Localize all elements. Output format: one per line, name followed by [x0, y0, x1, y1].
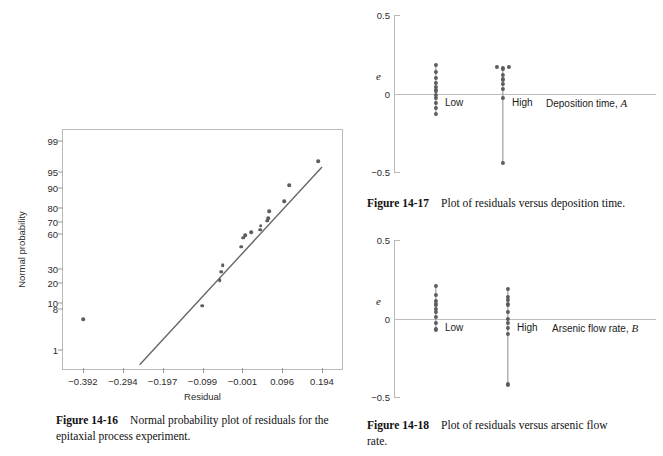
x-axis-tick-label: −0.294 [108, 376, 137, 387]
figure-14-16-caption-label: Figure 14-16 [56, 414, 118, 426]
y-axis-tick-label: 0.5 [377, 235, 390, 246]
residual-point [506, 382, 510, 386]
figure-14-17-caption-line1: Plot of residuals versus deposition time… [441, 197, 625, 209]
figure-14-18-caption-label: Figure 14-18 [367, 419, 429, 431]
residual-point [506, 316, 510, 320]
x-axis-tick-mark [322, 368, 323, 373]
data-point [317, 159, 321, 163]
y-axis-tick-label: 30 [47, 264, 58, 275]
x-axis-tick-mark [282, 368, 283, 373]
y-axis-tick-label: 8 [53, 303, 58, 314]
y-axis-label: e [376, 70, 381, 82]
residual-point [506, 321, 510, 325]
x-axis-tick-label: 0.194 [310, 376, 334, 387]
group-label-high: High [512, 97, 533, 108]
y-axis-tick-label: 0.5 [377, 10, 390, 21]
residual-point [501, 160, 505, 164]
figure-14-17-panel: 0.50−0.5 e Low High Deposition time, A [370, 8, 663, 183]
x-axis-tick-mark [123, 368, 124, 373]
residual-point [434, 69, 438, 73]
x-axis-title: Residual [62, 391, 343, 402]
normal-probability-plot-frame: 99959080706030201081 −0.392−0.294−0.197−… [62, 129, 343, 370]
data-point [268, 209, 272, 213]
data-point [283, 199, 287, 203]
figure-14-18-caption-line1: Plot of residuals versus arsenic flow [441, 419, 607, 431]
residual-point [506, 298, 510, 302]
y-axis-title-text: Normal probability [16, 211, 27, 288]
fit-line [63, 130, 342, 369]
y-axis-tick-label: −0.5 [371, 392, 390, 403]
residual-point [501, 96, 505, 100]
residual-point [434, 293, 438, 297]
residual-point [506, 302, 510, 306]
residual-point [434, 327, 438, 331]
figure-14-16-caption-line2: epitaxial process experiment. [56, 429, 356, 445]
y-axis-tick-label: 90 [47, 183, 58, 194]
residual-point [501, 82, 505, 86]
data-point [266, 216, 270, 220]
x-axis-tick-label: −0.197 [148, 376, 177, 387]
data-point [259, 224, 263, 228]
residual-point [434, 310, 438, 314]
x-axis-tick-mark [83, 368, 84, 373]
data-point [287, 184, 291, 188]
x-axis-tick-label: −0.392 [68, 376, 97, 387]
figure-14-18-panel: 0.50−0.5 e Low High Arsenic flow rate, B [370, 233, 663, 408]
data-point [218, 279, 222, 283]
residual-point [434, 63, 438, 67]
y-axis-tick-label: −0.5 [371, 167, 390, 178]
residual-point [434, 88, 438, 92]
y-axis-tick-label: 95 [47, 166, 58, 177]
group-label-low: Low [445, 97, 463, 108]
y-axis-tick-label: 20 [47, 278, 58, 289]
data-point [258, 228, 262, 232]
figure-14-17-caption-label: Figure 14-17 [367, 197, 429, 209]
group-label-high: High [517, 322, 538, 333]
x-axis-tick-label: −0.001 [228, 376, 257, 387]
factor-axis-label-symbol: B [631, 322, 638, 334]
residual-point [501, 66, 505, 70]
y-axis-tick-label: 60 [47, 229, 58, 240]
residual-point [434, 76, 438, 80]
normal-probability-plot-area: 99959080706030201081 [63, 130, 342, 369]
figure-14-16-panel: 99959080706030201081 −0.392−0.294−0.197−… [0, 0, 360, 456]
data-point [219, 270, 223, 274]
residual-point [434, 80, 438, 84]
factor-axis-label-symbol: A [620, 97, 627, 109]
y-axis-tick-mark [394, 172, 400, 173]
residual-point [434, 112, 438, 116]
residual-point [434, 101, 438, 105]
residual-point [506, 326, 510, 330]
factor-axis-label: Arsenic flow rate, B [552, 322, 638, 334]
x-axis-tick-label: −0.099 [188, 376, 217, 387]
data-point [221, 264, 225, 268]
residual-point [495, 65, 499, 69]
residual-point [501, 77, 505, 81]
residual-point [434, 321, 438, 325]
residual-point [434, 106, 438, 110]
data-point [81, 318, 85, 322]
y-axis-title: Normal probability [14, 129, 28, 370]
residual-point [501, 73, 505, 77]
x-axis-tick-mark [163, 368, 164, 373]
y-axis-tick-mark [394, 240, 400, 241]
data-point [250, 230, 254, 234]
figure-14-16-caption-line1: Normal probability plot of residuals for… [130, 414, 329, 426]
residual-point [434, 283, 438, 287]
y-axis-tick-label: 0 [385, 88, 390, 99]
data-point [239, 245, 243, 249]
y-axis-tick-label: 80 [47, 202, 58, 213]
residual-point [501, 87, 505, 91]
x-axis-tick-mark [203, 368, 204, 373]
group-label-low: Low [445, 322, 463, 333]
data-point [200, 304, 204, 308]
x-axis-tick-label: 0.096 [270, 376, 294, 387]
y-axis-tick-mark [394, 397, 400, 398]
zero-reference-line [394, 319, 656, 320]
factor-axis-label-text: Deposition time, [546, 98, 620, 109]
y-axis-tick-label: 70 [47, 217, 58, 228]
y-axis-tick-mark [394, 15, 400, 16]
figure-14-18-caption: Figure 14-18Plot of residuals versus ars… [367, 418, 663, 449]
y-axis-tick-label: 1 [53, 345, 58, 356]
figure-page: 99959080706030201081 −0.392−0.294−0.197−… [0, 0, 663, 456]
